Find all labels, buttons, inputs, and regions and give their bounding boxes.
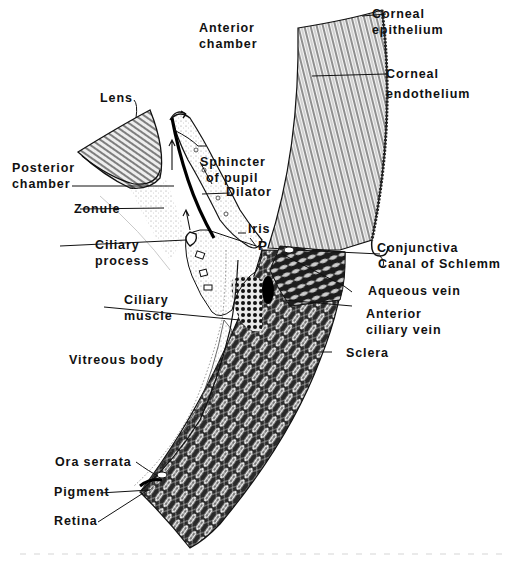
label-zonule: Zonule (74, 201, 120, 217)
faint-caption-line (20, 553, 510, 555)
label-corneal-epithelium: Corneal epithelium (372, 6, 444, 38)
label-canal-of-schlemm: Canal of Schlemm (378, 256, 501, 272)
label-posterior-chamber: Posterior chamber (12, 160, 75, 192)
label-ciliary-muscle: Ciliary muscle (124, 292, 172, 324)
label-ciliary-process: Ciliary process (95, 237, 149, 269)
label-anterior-chamber: Anterior chamber (199, 20, 257, 52)
label-vitreous-body: Vitreous body (69, 352, 164, 368)
label-conjunctiva: Conjunctiva (377, 240, 458, 256)
label-lens: Lens (100, 90, 133, 106)
cornea (268, 10, 387, 250)
label-ora-serrata: Ora serrata (55, 454, 132, 470)
label-corneal-endothelium: Corneal endothelium (386, 66, 470, 102)
label-aqueous-vein: Aqueous vein (368, 283, 461, 299)
label-p-marker: P (258, 238, 268, 254)
label-sphincter-of-pupil: Sphincter of pupil (200, 154, 266, 186)
label-dilator: Dilator (226, 184, 272, 200)
label-anterior-ciliary-vein: Anterior ciliary vein (366, 306, 441, 338)
lens (78, 110, 162, 188)
label-iris: Iris (248, 221, 270, 237)
label-retina: Retina (54, 513, 98, 529)
label-pigment: Pigment (54, 484, 110, 500)
label-sclera: Sclera (346, 345, 389, 361)
eye-anatomy-diagram: Anterior chamber Corneal epithelium Corn… (0, 0, 520, 564)
